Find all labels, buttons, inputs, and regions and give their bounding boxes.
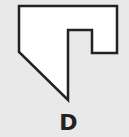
option-d-shape — [19, 6, 117, 100]
option-label: D — [0, 111, 129, 135]
